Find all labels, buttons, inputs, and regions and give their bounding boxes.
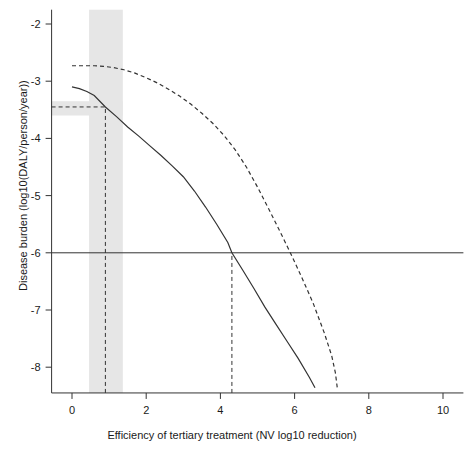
x-tick-label-2: 4 — [217, 404, 223, 416]
efficiency-uncertainty-band — [89, 10, 123, 393]
y-tick-label-4: -6 — [31, 247, 41, 259]
x-tick-label-4: 8 — [366, 404, 372, 416]
x-tick-label-3: 6 — [292, 404, 298, 416]
y-axis-title: Disease burden (log10(DALY/person/year)) — [17, 121, 29, 291]
y-tick-label-2: -4 — [31, 132, 41, 144]
y-tick-label-5: -7 — [31, 304, 41, 316]
chart-figure: 0246810-2-3-4-5-6-7-8 Disease burden (lo… — [0, 0, 464, 453]
x-tick-label-1: 2 — [143, 404, 149, 416]
y-tick-label-6: -8 — [31, 361, 41, 373]
y-tick-label-0: -2 — [31, 18, 41, 30]
y-tick-label-3: -5 — [31, 190, 41, 202]
y-tick-label-1: -3 — [31, 75, 41, 87]
x-tick-label-0: 0 — [69, 404, 75, 416]
x-tick-label-5: 10 — [437, 404, 449, 416]
x-axis-title: Efficiency of tertiary treatment (NV log… — [0, 429, 464, 441]
chart-plot-area: 0246810-2-3-4-5-6-7-8 — [0, 0, 464, 453]
